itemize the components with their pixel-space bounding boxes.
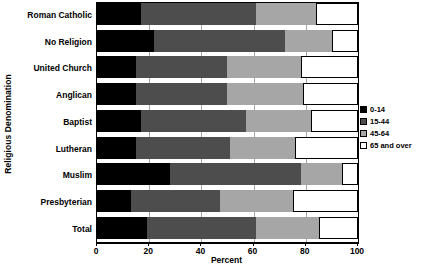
bar-segment-1: [136, 137, 230, 159]
bar-row: [97, 56, 358, 78]
category-label-1: No Religion: [45, 31, 92, 53]
bar-segment-3: [319, 217, 358, 239]
category-label-6: Muslim: [63, 164, 92, 186]
bar-segment-1: [147, 217, 257, 239]
bar-segment-3: [311, 110, 358, 132]
legend: 0-1415-4445-6465 and over: [360, 104, 422, 152]
bar-segment-3: [293, 190, 358, 212]
category-label-3: Anglican: [56, 84, 92, 106]
bar-row: [97, 83, 358, 105]
bar-segment-1: [136, 56, 227, 78]
legend-swatch-icon-0: [360, 106, 367, 113]
bar-row: [97, 30, 358, 52]
plot-area: [96, 2, 359, 244]
category-label-0: Roman Catholic: [27, 4, 92, 26]
legend-swatch-icon-1: [360, 118, 367, 125]
bar-segment-3: [295, 137, 358, 159]
bar-segment-0: [97, 217, 147, 239]
bar-segment-2: [285, 30, 332, 52]
x-axis-line: [96, 242, 357, 243]
bar-segment-2: [256, 217, 319, 239]
bar-segment-0: [97, 56, 136, 78]
bar-segment-2: [220, 190, 293, 212]
bar-segment-1: [131, 190, 220, 212]
bar-segment-3: [316, 3, 358, 25]
legend-label-2: 45-64: [370, 129, 389, 138]
x-axis-title: Percent: [96, 255, 357, 265]
bar-segment-0: [97, 30, 154, 52]
legend-label-0: 0-14: [370, 105, 385, 114]
bar-segment-3: [301, 56, 358, 78]
category-label-2: United Church: [33, 57, 92, 79]
bar-segment-3: [303, 83, 358, 105]
legend-item-2[interactable]: 45-64: [360, 128, 422, 139]
bar-segment-2: [227, 56, 300, 78]
bar-segment-1: [136, 83, 227, 105]
legend-item-0[interactable]: 0-14: [360, 104, 422, 115]
bar-row: [97, 110, 358, 132]
category-label-7: Presbyterian: [41, 191, 93, 213]
bar-segment-3: [342, 163, 358, 185]
y-axis-title-text: Religious Denomination: [3, 74, 13, 173]
bar-segment-0: [97, 110, 141, 132]
bar-segment-2: [301, 163, 343, 185]
bar-segment-2: [246, 110, 311, 132]
bar-segment-1: [141, 110, 245, 132]
bar-segment-0: [97, 137, 136, 159]
legend-item-3[interactable]: 65 and over: [360, 140, 422, 151]
category-label-8: Total: [72, 218, 92, 240]
bar-segment-2: [227, 83, 303, 105]
bar-segment-1: [154, 30, 285, 52]
legend-swatch-icon-3: [360, 142, 367, 149]
legend-item-1[interactable]: 15-44: [360, 116, 422, 127]
stacked-bar-chart: Religious Denomination Roman CatholicNo …: [0, 0, 423, 265]
bar-segment-0: [97, 163, 170, 185]
bar-segment-0: [97, 3, 141, 25]
legend-label-1: 15-44: [370, 117, 389, 126]
bar-row: [97, 137, 358, 159]
category-label-4: Baptist: [63, 111, 92, 133]
bar-row: [97, 190, 358, 212]
bar-row: [97, 217, 358, 239]
y-axis-tick-labels: Roman CatholicNo ReligionUnited ChurchAn…: [16, 3, 94, 241]
bar-segment-2: [256, 3, 316, 25]
legend-label-3: 65 and over: [370, 141, 412, 150]
category-label-5: Lutheran: [56, 138, 92, 160]
bar-segment-1: [141, 3, 256, 25]
legend-swatch-icon-2: [360, 130, 367, 137]
bar-row: [97, 163, 358, 185]
bar-row: [97, 3, 358, 25]
bar-segment-1: [170, 163, 301, 185]
bar-segment-2: [230, 137, 295, 159]
y-axis-title: Religious Denomination: [0, 0, 16, 248]
bar-segment-0: [97, 190, 131, 212]
bar-segment-0: [97, 83, 136, 105]
bar-segment-3: [332, 30, 358, 52]
